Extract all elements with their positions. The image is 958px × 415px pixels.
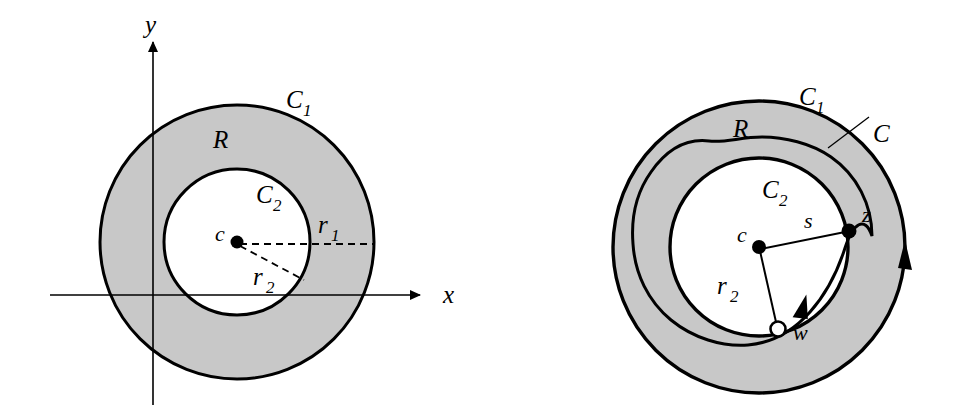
label-C2: C [256,181,273,208]
label-C1: C [799,83,816,110]
label-C1: C [286,86,303,113]
label-C1-subscript: 1 [303,101,312,120]
label-r2: r [717,272,727,299]
label-c: c [737,222,747,247]
point-z [842,224,857,239]
segment-r2-c-to-w [760,251,776,322]
label-r1-subscript: 1 [331,226,340,245]
label-s: s [804,208,813,233]
panel-right-annulus-contour: C 1 C R C 2 c s z w r 2 [479,0,958,415]
segment-s-c-to-z [761,232,845,249]
label-C1-subscript: 1 [816,98,825,117]
center-point-c [752,240,766,254]
label-C2-subscript: 2 [273,196,282,215]
radius-line-r2 [240,246,304,280]
label-c: c [215,221,225,246]
label-r1: r [318,211,328,238]
figure-annulus-diagram: C 1 R C 2 c r 1 r 2 y x [0,0,958,415]
label-z: z [861,202,871,227]
label-axis-y: y [142,11,157,38]
label-axis-x: x [442,281,454,308]
label-w: w [793,320,808,345]
label-R: R [732,115,748,142]
center-point-c [231,236,244,249]
label-r2-subscript: 2 [266,278,275,297]
label-C2-subscript: 2 [779,191,788,210]
label-r2: r [253,263,263,290]
label-r2-subscript: 2 [730,287,739,306]
label-C2: C [762,176,779,203]
label-C-contour: C [873,120,890,147]
point-w [771,322,786,337]
label-R: R [212,126,228,153]
panel-left-annulus-axes: C 1 R C 2 c r 1 r 2 y x [0,0,479,415]
